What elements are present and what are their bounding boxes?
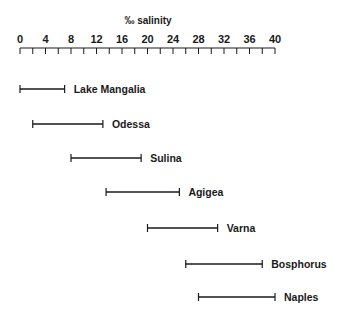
location-label: Lake Mangalia [74, 83, 146, 95]
x-tick-label: 28 [192, 33, 204, 45]
location-label: Bosphorus [271, 258, 327, 270]
x-tick-label: 8 [68, 33, 74, 45]
location-label: Naples [284, 291, 319, 303]
location-label: Agigea [188, 186, 223, 198]
location-label: Sulina [150, 152, 182, 164]
x-tick-label: 16 [116, 33, 128, 45]
x-tick-label: 40 [269, 33, 281, 45]
x-tick-label: 24 [167, 33, 180, 45]
location-label: Odessa [112, 118, 150, 130]
x-tick-label: 36 [243, 33, 255, 45]
salinity-range-chart: 0481216202428323640Lake MangaliaOdessaSu… [0, 0, 338, 317]
x-tick-label: 32 [218, 33, 230, 45]
x-tick-label: 4 [42, 33, 49, 45]
x-tick-label: 0 [17, 33, 23, 45]
location-label: Varna [227, 222, 256, 234]
x-tick-label: 20 [141, 33, 153, 45]
x-tick-label: 12 [90, 33, 102, 45]
